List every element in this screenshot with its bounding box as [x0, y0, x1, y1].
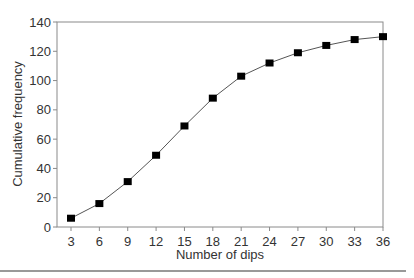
y-axis: 020406080100120140 — [29, 15, 57, 235]
data-point-marker — [95, 200, 103, 207]
x-tick-label: 36 — [376, 234, 390, 249]
data-point-marker — [294, 49, 302, 56]
x-tick-label: 9 — [124, 234, 131, 249]
data-point-marker — [266, 60, 274, 67]
data-point-marker — [322, 42, 330, 49]
data-point-marker — [237, 73, 245, 80]
plot-frame — [57, 22, 383, 227]
x-axis: 369121518212427303336 — [67, 227, 390, 249]
y-tick-label: 80 — [37, 102, 51, 117]
x-tick-label: 12 — [149, 234, 163, 249]
x-tick-label: 24 — [262, 234, 276, 249]
x-tick-label: 30 — [319, 234, 333, 249]
data-point-marker — [379, 33, 387, 40]
data-point-marker — [180, 122, 188, 129]
data-point-marker — [209, 95, 217, 102]
y-tick-label: 140 — [29, 15, 51, 30]
data-markers — [67, 33, 387, 222]
y-tick-label: 20 — [37, 190, 51, 205]
y-tick-label: 120 — [29, 44, 51, 59]
data-point-marker — [351, 36, 359, 43]
data-point-marker — [67, 215, 75, 222]
data-point-marker — [124, 178, 132, 185]
x-tick-label: 6 — [96, 234, 103, 249]
x-axis-title: Number of dips — [176, 247, 265, 262]
x-tick-label: 27 — [291, 234, 305, 249]
y-tick-label: 60 — [37, 132, 51, 147]
y-axis-title: Cumulative frequency — [10, 61, 25, 187]
y-tick-label: 40 — [37, 161, 51, 176]
x-tick-label: 3 — [67, 234, 74, 249]
x-tick-label: 33 — [347, 234, 361, 249]
cumulative-frequency-chart: 020406080100120140 369121518212427303336… — [0, 0, 414, 278]
y-tick-label: 100 — [29, 73, 51, 88]
y-tick-label: 0 — [44, 220, 51, 235]
data-point-marker — [152, 152, 160, 159]
series-line — [71, 37, 383, 219]
